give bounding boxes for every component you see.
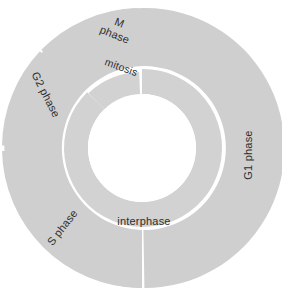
label-interphase: interphase — [117, 215, 170, 227]
label-g1-phase: G1 phase — [242, 130, 254, 179]
cell-cycle-svg: M phase mitosis G2 phase S phase G1 phas… — [0, 0, 282, 295]
center-hub — [88, 94, 196, 202]
cell-cycle-diagram: M phase mitosis G2 phase S phase G1 phas… — [0, 0, 282, 295]
